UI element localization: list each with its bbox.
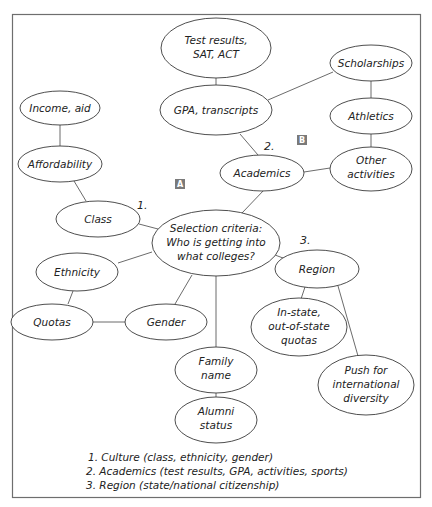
edge-afford-class [74,181,86,201]
svg-text:status: status [200,419,233,431]
edge-center-ethnicity [118,252,152,263]
edge-class-center [139,224,158,229]
svg-text:international: international [332,378,399,390]
branch-number-1: 1. [137,199,148,212]
svg-text:A: A [177,180,184,189]
node-athletics: Athletics [330,98,412,134]
svg-text:quotas: quotas [281,334,317,346]
node-gpa-transcripts: GPA, transcripts [160,85,272,135]
svg-text:Family: Family [199,355,235,367]
node-scholarships: Scholarships [330,45,412,81]
node-ethnicity: Ethnicity [36,253,118,291]
svg-text:Test results,: Test results, [184,34,247,46]
svg-text:Who is getting into: Who is getting into [166,236,266,248]
svg-text:Ethnicity: Ethnicity [54,266,101,278]
edge-gpa-scholarships [268,72,333,100]
svg-text:Income, aid: Income, aid [29,102,91,114]
svg-text:Alumni: Alumni [197,405,235,417]
badge-a: A [175,179,185,189]
badge-b: B [297,135,307,145]
legend: 1. Culture (class, ethnicity, gender) 2.… [86,451,348,491]
svg-text:Region: Region [299,263,335,275]
svg-text:name: name [201,369,231,381]
svg-text:Scholarships: Scholarships [338,57,405,69]
edge-academics-other [304,168,330,172]
svg-text:diversity: diversity [343,392,389,404]
edge-region-instate [301,287,305,299]
svg-text:Selection criteria:: Selection criteria: [170,222,263,234]
svg-text:In-state,: In-state, [277,306,320,318]
node-academics: Academics [220,155,304,191]
node-quotas: Quotas [11,304,93,340]
svg-text:Push for: Push for [345,364,389,376]
svg-text:Academics: Academics [233,167,291,179]
node-alumni-status: Alumni status [175,397,257,443]
svg-text:Athletics: Athletics [347,110,394,122]
node-affordability: Affordability [18,146,102,182]
node-gender: Gender [125,304,207,340]
svg-text:SAT, ACT: SAT, ACT [193,48,240,60]
edge-gpa-academics [240,134,258,155]
node-test-results: Test results, SAT, ACT [161,18,271,78]
legend-item-2: 2. Academics (test results, GPA, activit… [86,465,348,477]
branch-number-2: 2. [264,140,275,153]
node-region: Region [275,250,359,288]
svg-text:what colleges?: what colleges? [177,250,255,262]
node-push-international: Push for international diversity [318,355,414,415]
legend-item-3: 3. Region (state/national citizenship) [86,479,279,491]
svg-text:B: B [299,136,305,145]
svg-text:activities: activities [347,168,395,180]
node-other-activities: Other activities [330,147,412,191]
svg-text:out-of-state: out-of-state [268,320,329,332]
mind-map-diagram: Test results, SAT, ACT Scholarships GPA,… [0,0,432,507]
svg-text:Quotas: Quotas [33,316,71,328]
edge-center-region [275,255,283,258]
edge-academics-center [242,190,264,213]
edge-center-gender [175,275,192,304]
node-class: Class [56,201,140,237]
edge-ethnicity-quotas [68,291,73,304]
legend-item-1: 1. Culture (class, ethnicity, gender) [88,451,273,463]
svg-text:Gender: Gender [147,316,186,328]
node-selection-criteria: Selection criteria: Who is getting into … [152,210,280,276]
svg-text:GPA, transcripts: GPA, transcripts [174,104,259,116]
svg-text:Class: Class [84,213,112,225]
svg-text:Affordability: Affordability [27,158,93,170]
branch-number-3: 3. [300,234,311,247]
node-in-state-quotas: In-state, out-of-state quotas [251,298,347,356]
svg-text:Other: Other [356,154,386,166]
node-income-aid: Income, aid [20,91,100,125]
node-family-name: Family name [175,347,257,393]
